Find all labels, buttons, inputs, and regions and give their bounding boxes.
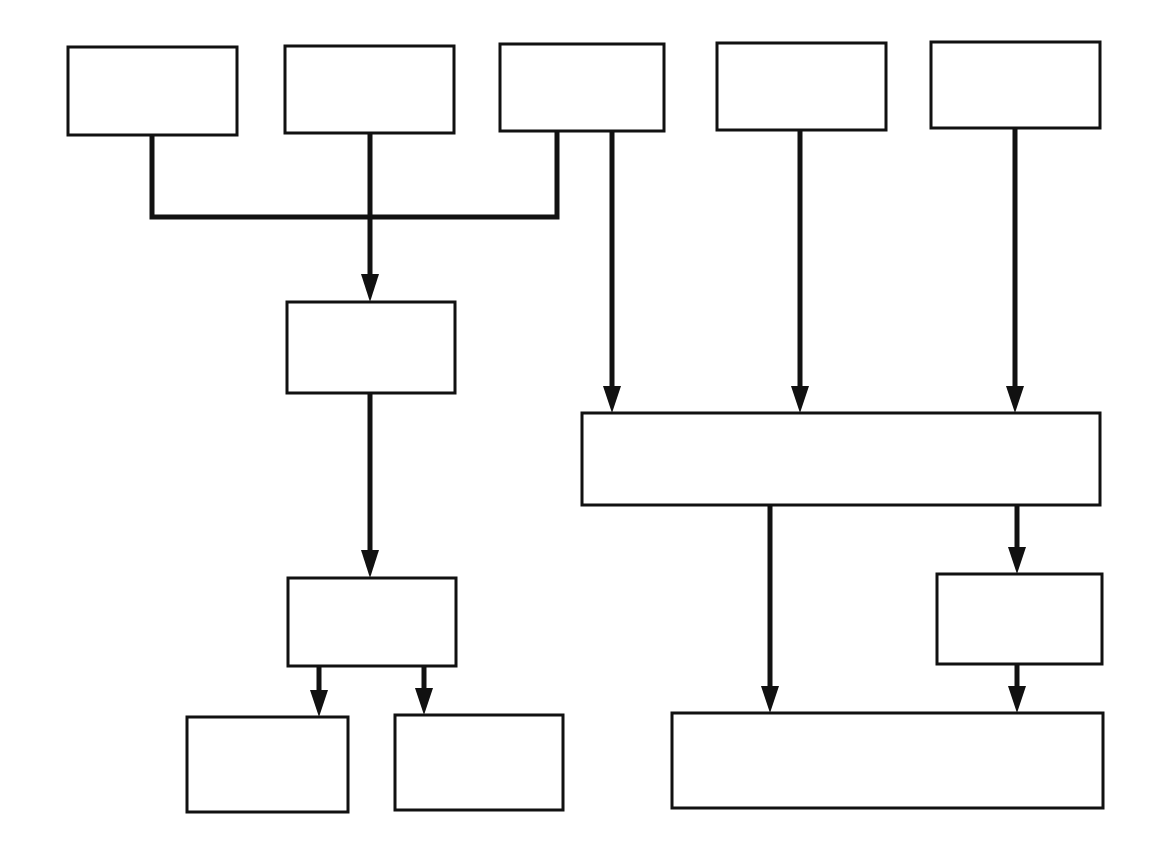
node-mid-left-1 (287, 302, 455, 393)
node-top-3 (500, 44, 664, 131)
arrow-smallright-to-bottomright (1008, 664, 1026, 713)
node-top-5 (931, 42, 1100, 128)
arrow-midleft2-to-bottomleft1 (310, 666, 328, 717)
arrow-top4-to-wide (791, 130, 809, 413)
node-mid-right-small (937, 574, 1102, 664)
node-bottom-left-1 (187, 717, 348, 812)
arrowhead-icon (1006, 386, 1024, 413)
arrowhead-icon (361, 550, 379, 578)
arrowhead-icon (415, 688, 433, 715)
flowchart-diagram (0, 0, 1158, 851)
arrow-wide-to-smallright (1008, 505, 1026, 574)
arrowhead-icon (1008, 547, 1026, 574)
node-bottom-right-wide (672, 713, 1103, 808)
arrowhead-icon (310, 690, 328, 717)
node-top-1 (68, 47, 237, 135)
node-mid-left-2 (288, 578, 456, 666)
node-mid-right-wide (582, 413, 1100, 505)
node-bottom-left-2 (395, 715, 563, 810)
node-top-2 (285, 46, 454, 133)
arrowhead-icon (361, 274, 379, 302)
arrow-top3-to-wide (603, 131, 621, 413)
arrowhead-icon (603, 386, 621, 413)
arrow-top5-to-wide (1006, 128, 1024, 413)
arrowhead-icon (1008, 686, 1026, 713)
arrow-midleft2-to-bottomleft2 (415, 666, 433, 715)
merge-connector (152, 131, 557, 302)
arrowhead-icon (761, 686, 779, 713)
node-top-4 (717, 43, 886, 130)
arrow-wide-to-bottomright (761, 505, 779, 713)
arrowhead-icon (791, 386, 809, 413)
arrow-midleft1-to-midleft2 (361, 393, 379, 578)
